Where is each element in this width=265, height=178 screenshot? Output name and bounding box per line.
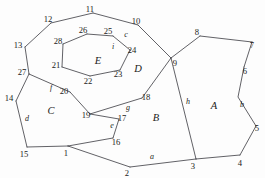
face-label-B: B [153,112,160,123]
edge-label-h: h [186,97,190,106]
vertex-label-17: 17 [118,113,127,123]
graph-edge [138,25,171,58]
edge-label-d: d [25,114,30,123]
vertex-label-19: 19 [82,110,91,120]
vertex-label-1: 1 [64,148,68,158]
edge-label-i: i [112,42,114,51]
vertex-label-2: 2 [125,168,129,178]
vertex-label-11: 11 [86,4,94,14]
vertex-label-27: 27 [18,67,27,77]
vertex-label-7: 7 [250,40,255,50]
graph-edge [68,138,113,146]
graph-edge [171,36,200,58]
vertex-label-15: 15 [20,149,29,159]
vertex-label-21: 21 [52,60,61,70]
vertex-label-3: 3 [191,161,195,171]
graph-edge [63,34,87,44]
diagram-canvas: 1234567891011121314151617181920212223242… [0,0,265,178]
graph-edge [51,13,93,23]
graph-edge [68,146,130,167]
face-labels-group: ABCDE [47,55,217,123]
vertex-label-13: 13 [14,40,23,50]
vertex-label-10: 10 [132,16,141,26]
vertex-label-26: 26 [79,25,88,35]
vertex-label-18: 18 [142,92,151,102]
planar-graph: 1234567891011121314151617181920212223242… [0,0,265,178]
graph-edge [240,126,256,155]
vertex-label-22: 22 [84,76,93,86]
vertex-label-12: 12 [44,14,53,24]
graph-edge [200,36,252,42]
vertex-label-24: 24 [128,45,137,55]
vertex-label-28: 28 [54,36,63,46]
face-label-D: D [133,63,142,74]
graph-edge [171,58,196,159]
graph-edge [16,101,27,147]
vertex-label-25: 25 [104,26,113,36]
graph-edge [130,159,196,167]
vertex-label-4: 4 [238,158,243,168]
graph-edge [27,146,68,147]
graph-edge [62,44,63,67]
edge-label-g: g [126,103,130,112]
vertex-label-5: 5 [255,123,259,133]
graph-edge [16,74,29,101]
vertex-label-16: 16 [112,137,121,147]
graph-edge [90,98,142,114]
graph-edge [196,155,240,159]
vertex-label-20: 20 [60,86,69,96]
edge-label-e: e [110,121,114,130]
vertex-label-9: 9 [173,58,177,68]
vertex-label-23: 23 [114,69,123,79]
face-label-E: E [94,55,102,66]
edge-label-a: a [150,152,154,161]
vertex-label-6: 6 [243,66,248,76]
graph-edge [90,114,119,119]
graph-edge [62,67,90,76]
edge-label-b: b [240,100,244,109]
graph-edge [25,23,51,47]
face-label-C: C [47,105,55,116]
face-label-A: A [210,100,218,111]
edge-label-c: c [124,30,128,39]
vertex-label-8: 8 [195,27,199,37]
vertex-label-14: 14 [5,93,14,103]
